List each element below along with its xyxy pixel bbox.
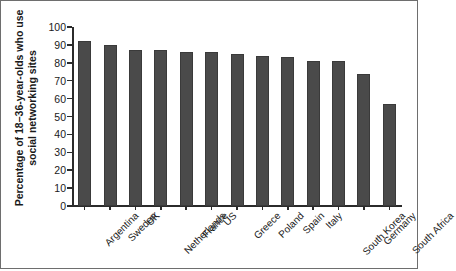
y-axis-tick [67, 169, 72, 171]
y-axis-tick [67, 62, 72, 64]
y-axis-tick [67, 152, 72, 154]
bar [129, 50, 142, 206]
bar [357, 74, 370, 206]
bar [205, 52, 218, 206]
y-axis-tick [67, 187, 72, 189]
y-axis-tick [67, 80, 72, 82]
x-axis-tick-labels: ArgentinaSwedenUKNetherlandsFranceUSGree… [72, 210, 412, 270]
y-axis-tick-label: 60 [44, 94, 66, 104]
y-axis-line [72, 27, 74, 206]
x-axis-tick-label: Spain [300, 210, 326, 236]
bar [256, 56, 269, 206]
y-axis-tick [67, 98, 72, 100]
y-axis-tick-labels: 0102030405060708090100 [42, 27, 66, 206]
y-axis-tick-label: 100 [44, 22, 66, 32]
y-axis-tick [67, 44, 72, 46]
y-axis-tick-label: 70 [44, 76, 66, 86]
bar [383, 104, 396, 206]
y-axis-tick-label: 90 [44, 40, 66, 50]
y-axis-tick-label: 10 [44, 183, 66, 193]
bar [332, 61, 345, 206]
y-axis-tick [67, 116, 72, 118]
y-axis-title: Percentage of 18–36-year-olds who use so… [13, 9, 39, 206]
bar [307, 61, 320, 206]
plot-area [72, 27, 402, 206]
y-axis-tick [67, 134, 72, 136]
y-axis-tick [67, 26, 72, 28]
y-axis-tick-label: 0 [44, 201, 66, 211]
bar [281, 57, 294, 206]
y-axis-tick-label: 50 [44, 112, 66, 122]
y-axis-title-line-1: Percentage of 18–36-year-olds who use [13, 9, 26, 206]
y-axis-tick-label: 80 [44, 58, 66, 68]
x-axis-tick-label: Italy [324, 210, 345, 231]
bar [180, 52, 193, 206]
bar [231, 54, 244, 206]
y-axis-tick [67, 205, 72, 207]
bar [78, 41, 91, 206]
bar [154, 50, 167, 206]
y-axis-title-line-2: social networking sites [26, 9, 39, 206]
y-axis-tick-label: 40 [44, 129, 66, 139]
y-axis-tick-label: 20 [44, 165, 66, 175]
x-axis-tick-label: Greece [252, 210, 283, 241]
y-axis-tick-label: 30 [44, 147, 66, 157]
chart-figure: Percentage of 18–36-year-olds who use so… [0, 0, 418, 269]
bar [104, 45, 117, 206]
